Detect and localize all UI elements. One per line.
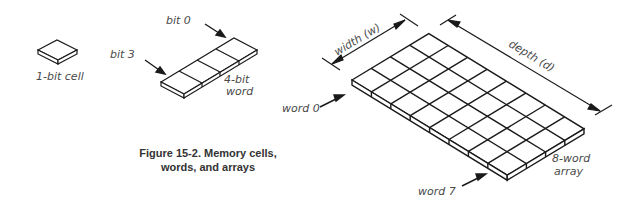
caption-line-2: words, and arrays bbox=[118, 160, 298, 174]
memory-diagram: 1-bit cell bit 0 bit 3 4-bit word width … bbox=[0, 0, 642, 209]
bit3-label: bit 3 bbox=[110, 48, 135, 61]
depth-label: depth (d) bbox=[506, 37, 556, 74]
one-bit-cell bbox=[38, 40, 77, 64]
cell-label: 1-bit cell bbox=[36, 70, 84, 83]
word-label-2: word bbox=[226, 85, 254, 98]
caption-line-1: Figure 15-2. Memory cells, bbox=[118, 146, 298, 160]
word7-label: word 7 bbox=[418, 185, 456, 198]
array-label-2: array bbox=[554, 165, 584, 178]
array-label-1: 8-word bbox=[552, 152, 591, 165]
eight-word-array bbox=[352, 34, 584, 181]
word0-label: word 0 bbox=[282, 102, 320, 115]
bit0-label: bit 0 bbox=[166, 14, 191, 27]
width-label: width (w) bbox=[332, 21, 383, 59]
figure-caption: Figure 15-2. Memory cells, words, and ar… bbox=[118, 146, 298, 174]
